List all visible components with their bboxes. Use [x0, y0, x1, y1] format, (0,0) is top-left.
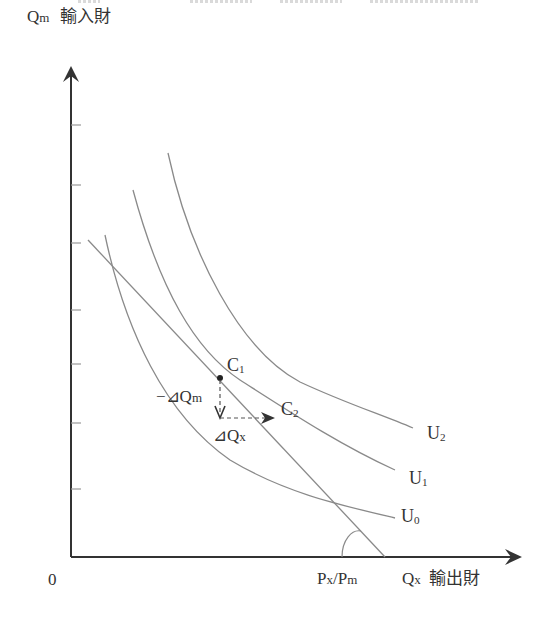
point-label-c2: C2	[281, 400, 299, 419]
figure-canvas: Qm 輸入財 0 Px/Pm Qx 輸出財 U2 U1 U0 C1 C2 −⊿Q…	[0, 0, 547, 619]
axes	[71, 70, 515, 557]
x-axis-symbol: Q	[402, 569, 414, 588]
x-axis-subscript: x	[414, 572, 421, 587]
curve-u2	[168, 153, 413, 428]
y-axis-label: Qm 輸入財	[27, 8, 111, 25]
y-axis-symbol: Q	[27, 7, 39, 26]
y-ticks	[71, 125, 81, 489]
pm-symbol: P	[338, 569, 347, 588]
curve-label-u1: U1	[409, 469, 428, 488]
point-label-c1: C1	[227, 356, 245, 375]
delta-qx-label: ⊿Qx	[213, 427, 246, 444]
y-axis-text: 輸入財	[60, 6, 111, 26]
y-axis-subscript: m	[39, 10, 49, 25]
curve-label-u2: U2	[427, 424, 446, 443]
delta-qm-label: −⊿Qm	[156, 388, 202, 405]
x-axis-text: 輸出財	[429, 568, 480, 588]
price-ratio-label: Px/Pm	[317, 570, 357, 587]
pm-subscript: m	[347, 572, 357, 587]
budget-line	[88, 240, 385, 557]
origin-label: 0	[48, 571, 57, 588]
curve-u0	[105, 235, 395, 518]
curve-label-u0: U0	[401, 507, 420, 526]
x-axis-label: Qx 輸出財	[402, 570, 480, 587]
slope-angle-arc	[342, 531, 361, 557]
diagram-svg	[0, 0, 547, 619]
